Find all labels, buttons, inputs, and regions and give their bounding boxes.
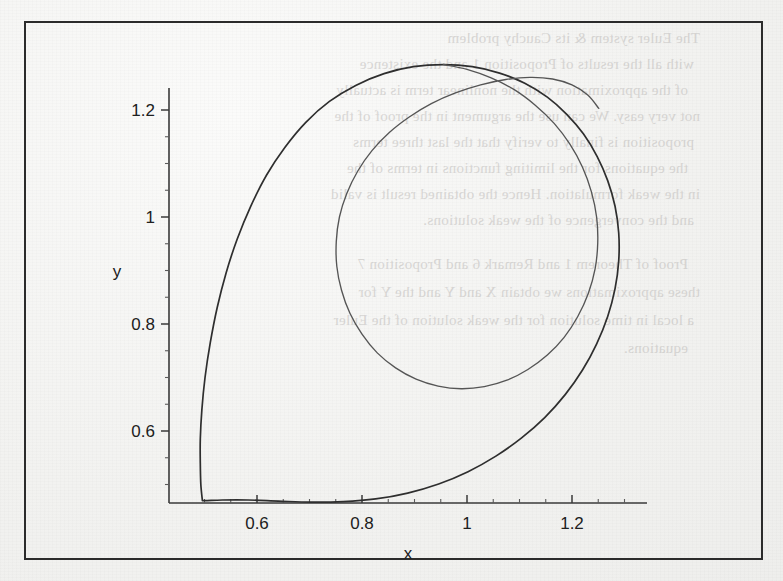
y-axis-tick-labels: 0.60.811.2 bbox=[131, 101, 155, 441]
x-tick-label: 1 bbox=[462, 514, 471, 533]
plot-curves bbox=[200, 65, 619, 503]
x-axis-title: x bbox=[404, 544, 413, 562]
x-tick-label: 0.6 bbox=[245, 514, 269, 533]
x-tick-label: 1.2 bbox=[560, 514, 584, 533]
curve-outer-orbit bbox=[200, 65, 619, 503]
plot-axes bbox=[169, 88, 647, 503]
x-axis-tick-labels: 0.60.811.2 bbox=[245, 514, 584, 533]
phase-portrait-plot: 0.60.811.2 0.60.811.2 x y bbox=[26, 23, 765, 562]
y-axis-ticks bbox=[161, 110, 169, 485]
curve-inner-orbit bbox=[336, 65, 599, 389]
y-tick-label: 0.6 bbox=[131, 422, 155, 441]
y-tick-label: 0.8 bbox=[131, 315, 155, 334]
y-tick-label: 1 bbox=[146, 208, 155, 227]
x-axis-ticks bbox=[205, 495, 625, 503]
y-tick-label: 1.2 bbox=[131, 101, 155, 120]
figure-frame-border: 0.60.811.2 0.60.811.2 x y bbox=[24, 21, 763, 560]
screenshot-page: The Euler system & its Cauchy problemwit… bbox=[0, 0, 783, 581]
x-tick-label: 0.8 bbox=[350, 514, 374, 533]
y-axis-title: y bbox=[113, 262, 122, 281]
